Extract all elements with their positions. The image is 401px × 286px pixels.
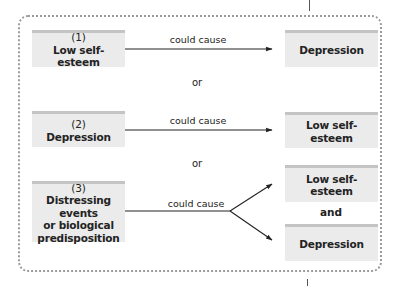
or-separator-2: or — [192, 158, 202, 169]
cause-label-line-1: Distressing events — [32, 194, 125, 219]
effect-box-3a: Low self-esteem — [285, 165, 378, 202]
relation-label-3: could cause — [168, 198, 225, 209]
effect-box-2: Low self-esteem — [285, 112, 378, 148]
cause-label-line-3: predisposition — [37, 232, 119, 245]
cause-number: (2) — [71, 118, 85, 131]
cause-number: (3) — [71, 182, 85, 195]
cause-box-1: (1) Low self-esteem — [32, 30, 125, 67]
effect-label: Depression — [299, 44, 363, 57]
cause-number: (1) — [71, 31, 85, 44]
effect-label: Low self-esteem — [285, 119, 378, 144]
cause-label-line-2: or biological — [43, 219, 114, 232]
effect-label: Low self-esteem — [285, 173, 378, 198]
cause-box-2: (2) Depression — [32, 111, 125, 147]
relation-label-2: could cause — [170, 115, 227, 126]
effect-label: Depression — [299, 238, 363, 251]
cause-label: Depression — [46, 131, 110, 144]
bottom-connector-line — [307, 279, 308, 286]
cause-box-3: (3) Distressing events or biological pre… — [32, 181, 125, 242]
effect-box-1: Depression — [285, 30, 378, 67]
cause-label: Low self-esteem — [32, 44, 125, 69]
and-joiner: and — [320, 206, 342, 218]
top-connector-line — [309, 0, 310, 11]
or-separator-1: or — [192, 77, 202, 88]
relation-label-1: could cause — [170, 34, 227, 45]
effect-box-3b: Depression — [285, 224, 378, 261]
